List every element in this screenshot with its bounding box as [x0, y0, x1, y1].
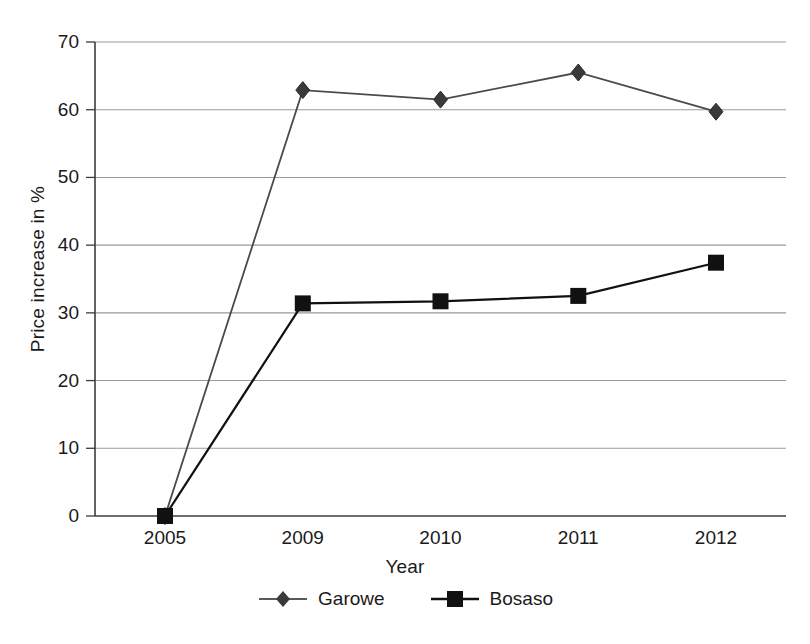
- legend-label: Bosaso: [490, 588, 553, 610]
- diamond-marker: [257, 589, 309, 609]
- data-point-bosaso-2005: [157, 508, 173, 524]
- data-point-bosaso-2011: [570, 288, 586, 304]
- legend-item-bosaso[interactable]: Bosaso: [429, 588, 553, 610]
- data-point-garowe-2012: [709, 103, 723, 120]
- y-tick-label-10: 10: [19, 437, 79, 459]
- data-point-bosaso-2009: [295, 295, 311, 311]
- data-point-bosaso-2010: [433, 293, 449, 309]
- chart-figure: Price increase in % Year 706050403020100…: [0, 0, 810, 644]
- data-point-garowe-2009: [296, 82, 310, 99]
- y-tick-label-60: 60: [19, 99, 79, 121]
- y-tick-label-0: 0: [19, 505, 79, 527]
- y-tick-label-50: 50: [19, 166, 79, 188]
- y-tick-label-20: 20: [19, 370, 79, 392]
- legend-item-garowe[interactable]: Garowe: [257, 588, 385, 610]
- y-tick-label-30: 30: [19, 302, 79, 324]
- legend-label: Garowe: [318, 588, 385, 610]
- square-marker: [429, 589, 481, 609]
- data-point-bosaso-2012: [708, 255, 724, 271]
- x-tick-label-2005: 2005: [110, 527, 220, 549]
- data-point-garowe-2010: [434, 91, 448, 108]
- chart-legend: GaroweBosaso: [0, 588, 810, 610]
- x-tick-label-2010: 2010: [386, 527, 496, 549]
- x-tick-label-2012: 2012: [661, 527, 771, 549]
- y-tick-label-70: 70: [19, 31, 79, 53]
- data-point-garowe-2011: [571, 64, 585, 81]
- y-tick-label-40: 40: [19, 234, 79, 256]
- x-tick-label-2011: 2011: [523, 527, 633, 549]
- x-tick-label-2009: 2009: [248, 527, 358, 549]
